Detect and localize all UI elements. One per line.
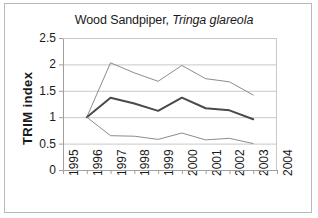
data-series-group [87, 63, 253, 144]
chart-figure: Wood Sandpiper, Tringa glareola TRIM ind… [0, 0, 318, 218]
y-axis-ticks [59, 39, 63, 171]
series-line [87, 63, 253, 117]
plot-area [0, 0, 318, 218]
series-line [87, 98, 253, 120]
series-line [87, 117, 253, 143]
